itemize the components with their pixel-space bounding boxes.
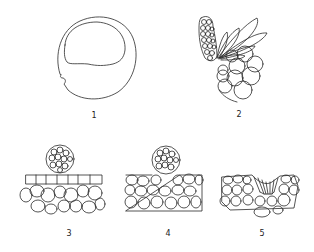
figure-2-label: 2 bbox=[233, 110, 245, 120]
figure-2-drawing bbox=[157, 0, 314, 126]
figure-4: 4 bbox=[110, 126, 210, 252]
figure-1-label: 1 bbox=[88, 111, 100, 121]
figure-5-label: 5 bbox=[256, 229, 268, 239]
figure-1: 1 bbox=[0, 0, 157, 126]
figure-3-label: 3 bbox=[63, 229, 75, 239]
figure-4-drawing bbox=[110, 126, 210, 252]
figure-5: 5 bbox=[210, 126, 314, 252]
figure-4-label: 4 bbox=[162, 229, 174, 239]
figure-3: 3 bbox=[0, 126, 110, 252]
figure-3-drawing bbox=[0, 126, 110, 252]
figure-2: 2 bbox=[157, 0, 314, 126]
figure-1-drawing bbox=[0, 0, 157, 126]
